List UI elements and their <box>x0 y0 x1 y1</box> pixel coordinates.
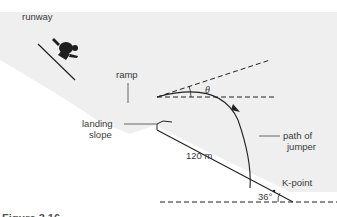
path-label-2: jumper <box>286 141 316 152</box>
landing-slope-label-1: landing <box>82 118 113 129</box>
landing-slope-label-2: slope <box>89 129 112 140</box>
ramp-label: ramp <box>116 69 138 80</box>
figure-caption: Figure 3.16 <box>2 212 60 217</box>
landing-angle-label: 36° <box>258 191 273 202</box>
k-point-label: K-point <box>282 177 312 188</box>
distance-label: 120 m <box>186 150 212 161</box>
path-label-1: path of <box>283 130 312 141</box>
takeoff-angle-label: θ <box>205 84 210 95</box>
runway-label: runway <box>22 11 53 22</box>
ski-jump-diagram: runway ramp landing slope path of jumper… <box>0 0 337 217</box>
hill-region <box>0 12 337 192</box>
k-point-marker <box>273 190 276 193</box>
